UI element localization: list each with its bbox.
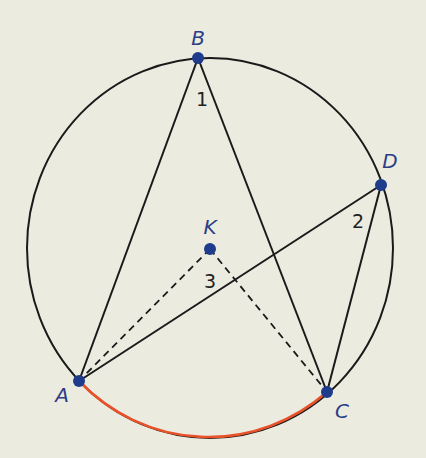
label-k: K <box>203 215 218 239</box>
radius-kc-dashed <box>210 249 327 392</box>
segment-bc <box>198 58 327 392</box>
point-b <box>192 52 204 64</box>
diagram-svg: B D K A C 1 2 3 <box>0 0 426 458</box>
arc-ac-highlight <box>79 381 327 437</box>
label-c: C <box>335 399 349 423</box>
inscribed-angle-diagram: B D K A C 1 2 3 <box>0 0 426 458</box>
label-a: A <box>53 383 69 407</box>
angle-label-3: 3 <box>204 270 216 292</box>
angle-label-1: 1 <box>196 88 208 110</box>
point-c <box>321 386 333 398</box>
point-d <box>375 179 387 191</box>
angle-label-2: 2 <box>352 210 364 232</box>
label-b: B <box>191 26 205 50</box>
segment-da <box>79 185 381 381</box>
segment-ba <box>79 58 198 381</box>
radius-ka-dashed <box>79 249 210 381</box>
point-a <box>73 375 85 387</box>
point-k <box>204 243 216 255</box>
label-d: D <box>382 149 397 173</box>
